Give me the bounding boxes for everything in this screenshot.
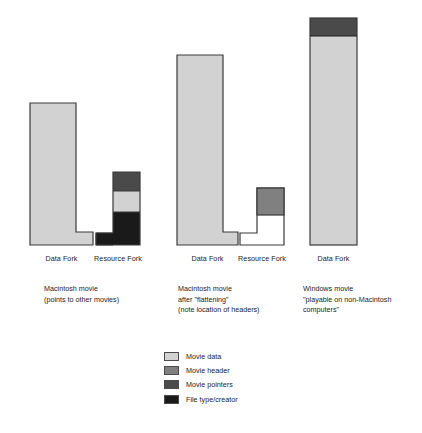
caption-group-1: Macintosh movie (points to other movies) (44, 284, 119, 305)
caption-group-2: Macintosh movie after "flattening" (note… (178, 284, 260, 316)
legend-item: Movie pointers (164, 378, 238, 392)
legend-label: File type/creator (186, 395, 238, 404)
data-fork-2-label: Data Fork (177, 254, 238, 263)
caption-group-3-line-3: computers" (303, 305, 391, 316)
data-fork-1-shape (30, 103, 93, 245)
resource-fork-1-movie-pointers (113, 172, 140, 191)
data-fork-2-shape (177, 55, 238, 245)
data-fork-3-label: Data Fork (302, 254, 365, 263)
resource-fork-2-label: Resource Fork (232, 254, 292, 263)
resource-fork-1-movie-data (113, 191, 140, 212)
legend-swatch-movie-data (164, 352, 179, 361)
resource-fork-1-foot (96, 233, 113, 245)
data-fork-3-movie-header (310, 18, 357, 36)
resource-fork-1-label: Resource Fork (88, 254, 148, 263)
legend-swatch-movie-pointers (164, 380, 179, 389)
legend-label: Movie data (186, 352, 221, 361)
legend-label: Movie header (186, 366, 230, 375)
legend-item: Movie header (164, 364, 238, 378)
caption-group-3: Windows movie "playable on non-Macintosh… (303, 284, 391, 316)
resource-fork-1-file-type-creator (113, 212, 140, 245)
legend-item: File type/creator (164, 392, 238, 406)
caption-group-3-line-2: "playable on non-Macintosh (303, 295, 391, 306)
caption-group-3-line-1: Windows movie (303, 284, 391, 295)
caption-group-1-line-2: (points to other movies) (44, 295, 119, 306)
caption-group-2-line-1: Macintosh movie (178, 284, 260, 295)
caption-group-1-line-1: Macintosh movie (44, 284, 119, 295)
legend: Movie data Movie header Movie pointers F… (164, 350, 238, 406)
data-fork-1-label: Data Fork (30, 254, 93, 263)
resource-fork-2-movie-header (257, 188, 284, 215)
caption-group-2-line-3: (note location of headers) (178, 305, 260, 316)
legend-label: Movie pointers (186, 380, 233, 389)
legend-item: Movie data (164, 350, 238, 364)
data-fork-3-movie-data (310, 36, 357, 245)
caption-group-2-line-2: after "flattening" (178, 295, 260, 306)
legend-swatch-movie-header (164, 366, 179, 375)
legend-swatch-file-type-creator (164, 395, 179, 404)
